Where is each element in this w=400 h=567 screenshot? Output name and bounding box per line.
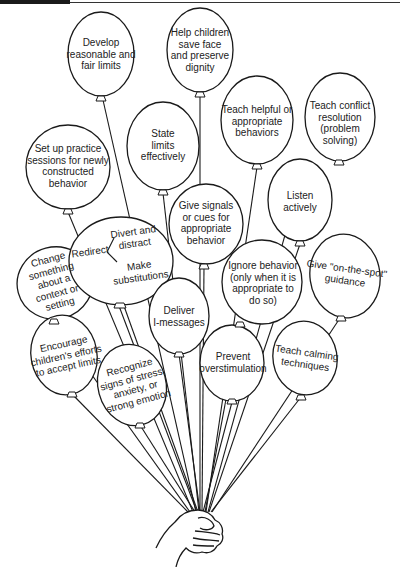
label-listen-actively: Listen actively [270, 190, 330, 213]
balloon-diagram: Develop reasonable and fair limits Help … [0, 0, 400, 567]
label-practice-sessions: Set up practice sessions for newly const… [26, 143, 110, 189]
label-save-face: Help children save face and preserve dig… [166, 27, 234, 73]
label-state-limits: State limits effectively [127, 128, 199, 163]
label-i-messages: Deliver I-messages [147, 305, 211, 328]
label-develop-limits: Develop reasonable and fair limits [66, 37, 136, 72]
label-ignore-behavior: Ignore behavior (only when it is appropr… [222, 260, 304, 306]
label-conflict-resolution: Teach conflict resolution (problem solvi… [302, 100, 378, 146]
label-give-signals: Give signals or cues for appropriate beh… [170, 200, 242, 246]
label-teach-helpful: Teach helpful or appropriate behaviors [219, 104, 295, 139]
hand-illustration [156, 510, 223, 567]
label-prevent-overstimulation: Prevent overstimulation [196, 351, 270, 374]
